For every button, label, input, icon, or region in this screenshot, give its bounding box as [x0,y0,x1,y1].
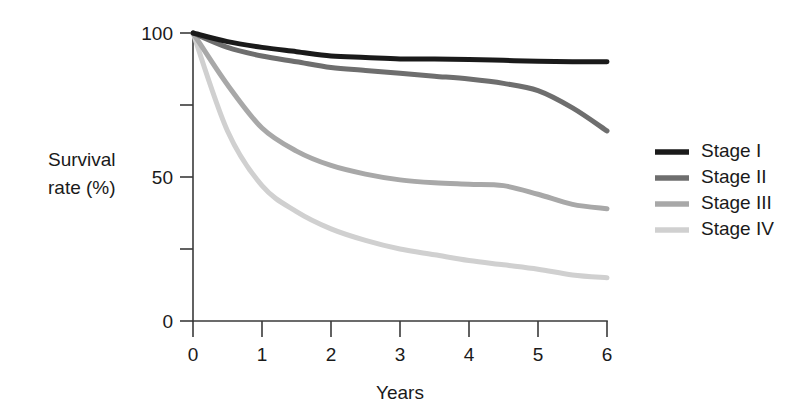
survival-curve-figure: 0501000123456 YearsSurvivalrate (%) Stag… [0,0,807,414]
legend-label-stage-iii: Stage III [701,192,772,213]
x-axis-tick-label: 2 [326,344,337,365]
legend-label-stage-ii: Stage II [701,166,767,187]
x-axis-title: Years [376,382,424,403]
y-axis-title-line2: rate (%) [48,177,116,198]
legend-label-stage-iv: Stage IV [701,218,774,239]
x-axis-tick-label: 5 [533,344,544,365]
x-axis-tick-label: 0 [188,344,199,365]
series-lines [193,33,607,278]
chart-canvas: 0501000123456 YearsSurvivalrate (%) Stag… [0,0,807,414]
y-axis-tick-label: 100 [141,23,173,44]
legend: Stage IStage IIStage IIIStage IV [655,140,774,239]
series-line-stage-i [193,33,607,62]
y-axis-tick-label: 0 [162,311,173,332]
y-axis-tick-label: 50 [152,167,173,188]
y-axis-title-line1: Survival [48,149,116,170]
legend-label-stage-i: Stage I [701,140,761,161]
x-axis-tick-label: 4 [464,344,475,365]
x-axis-tick-label: 6 [602,344,613,365]
x-axis-tick-label: 3 [395,344,406,365]
x-axis-tick-label: 1 [257,344,268,365]
axis-titles: YearsSurvivalrate (%) [48,149,424,403]
axes [180,33,607,337]
series-line-stage-iv [193,33,607,278]
